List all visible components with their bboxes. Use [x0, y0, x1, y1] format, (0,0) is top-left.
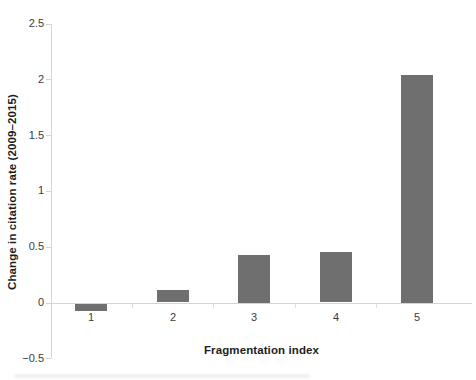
x-category-label: 3	[234, 311, 274, 324]
bar-category-3	[238, 255, 270, 303]
y-tick-label: −0.5	[10, 352, 44, 365]
x-category-label: 2	[153, 311, 193, 324]
y-tick-label: 1.5	[10, 129, 44, 142]
x-category-label: 4	[316, 311, 356, 324]
y-tick-mark	[46, 358, 51, 359]
y-tick-mark	[46, 247, 51, 248]
y-tick-label: 0.5	[10, 240, 44, 253]
bar-category-2	[157, 290, 189, 302]
x-tick-mark	[295, 304, 296, 308]
bar-category-5	[401, 75, 433, 303]
cropped-caption-artifact	[14, 374, 310, 378]
bar-chart-figure: Change in citation rate (2009–2015) −0.5…	[0, 0, 476, 380]
x-tick-mark	[376, 304, 377, 308]
y-tick-mark	[46, 135, 51, 136]
x-axis-line	[51, 303, 472, 304]
y-tick-label: 0	[10, 296, 44, 309]
y-tick-mark	[46, 191, 51, 192]
y-tick-mark	[46, 79, 51, 80]
y-tick-mark	[46, 303, 51, 304]
bar-category-1	[75, 304, 107, 311]
x-tick-mark	[132, 304, 133, 308]
x-category-label: 5	[397, 311, 437, 324]
y-axis-line	[51, 24, 52, 359]
x-category-label: 1	[71, 311, 111, 324]
y-tick-label: 2	[10, 73, 44, 86]
y-tick-label: 2.5	[10, 17, 44, 30]
y-tick-mark	[46, 24, 51, 25]
x-tick-mark	[213, 304, 214, 308]
bar-category-4	[320, 252, 352, 302]
y-tick-label: 1	[10, 184, 44, 197]
x-axis-title: Fragmentation index	[51, 344, 472, 356]
